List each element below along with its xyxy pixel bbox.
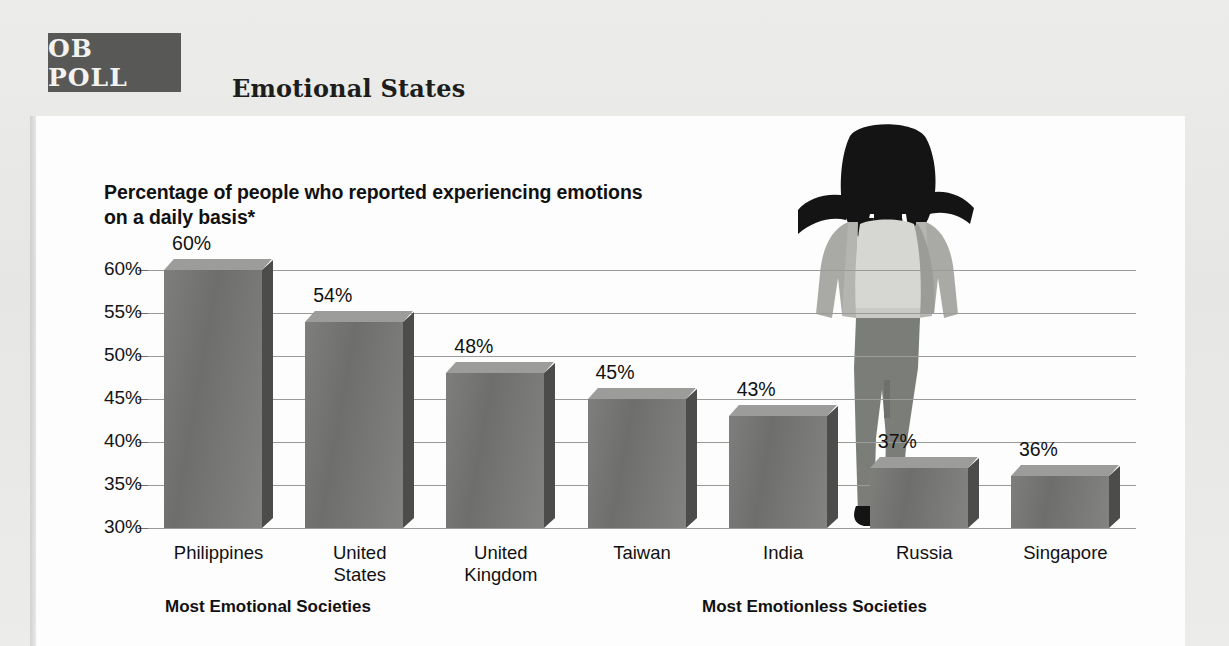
x-axis-category-label: UnitedKingdom	[430, 542, 571, 586]
y-axis-tick-label: 35%	[86, 473, 142, 495]
page-title: Emotional States	[232, 74, 465, 103]
y-axis-tick-label: 40%	[86, 430, 142, 452]
x-axis-category-label: Taiwan	[571, 542, 712, 564]
bar-top-face	[164, 259, 272, 270]
bar-front-face	[446, 373, 544, 528]
x-axis-category-label: UnitedStates	[289, 542, 430, 586]
bar-top-face	[1011, 465, 1119, 476]
gridline	[148, 528, 1136, 529]
y-axis-tick-label: 55%	[86, 301, 142, 323]
bar-side-face	[403, 312, 414, 528]
gridline	[148, 356, 1136, 357]
gridline	[148, 313, 1136, 314]
bar-value-label: 60%	[172, 232, 211, 255]
bar	[1011, 476, 1109, 528]
bar-value-label: 54%	[313, 284, 352, 307]
bar	[588, 399, 686, 528]
bar-top-face	[588, 388, 696, 399]
bar-value-label: 43%	[737, 378, 776, 401]
bar-top-face	[870, 457, 978, 468]
bar-value-label: 36%	[1019, 438, 1058, 461]
bar-side-face	[544, 363, 555, 528]
bar-value-label: 45%	[596, 361, 635, 384]
bar-top-face	[446, 362, 554, 373]
bar-side-face	[686, 389, 697, 528]
group-label: Most Emotional Societies	[165, 597, 371, 617]
bar-side-face	[1109, 467, 1120, 528]
bar-top-face	[305, 311, 413, 322]
bar-front-face	[870, 468, 968, 528]
bar-side-face	[262, 260, 273, 528]
bar-top-face	[729, 405, 837, 416]
bar	[870, 468, 968, 528]
chart-subtitle: Percentage of people who reported experi…	[104, 180, 664, 230]
bar-value-label: 37%	[878, 430, 917, 453]
bar	[446, 373, 544, 528]
y-axis-tick-label: 30%	[86, 516, 142, 538]
bar-front-face	[729, 416, 827, 528]
x-axis-category-label: Philippines	[148, 542, 289, 564]
x-axis-category-label: Singapore	[995, 542, 1136, 564]
gridline	[148, 270, 1136, 271]
bar-value-label: 48%	[454, 335, 493, 358]
bar-front-face	[305, 322, 403, 528]
ob-poll-badge: OB POLL	[48, 33, 181, 92]
chart-plot-area: 60%55%50%45%40%35%30%	[148, 270, 1136, 528]
bar-side-face	[968, 458, 979, 528]
y-axis-tick-label: 60%	[86, 258, 142, 280]
bar	[729, 416, 827, 528]
bar-front-face	[1011, 476, 1109, 528]
bar-front-face	[588, 399, 686, 528]
ob-poll-badge-label: OB POLL	[48, 34, 181, 92]
y-axis-tick-label: 45%	[86, 387, 142, 409]
bar	[164, 270, 262, 528]
x-axis-category-label: Russia	[854, 542, 995, 564]
x-axis-category-label: India	[713, 542, 854, 564]
bar-side-face	[827, 406, 838, 528]
y-axis-tick-label: 50%	[86, 344, 142, 366]
bar	[305, 322, 403, 528]
bar-front-face	[164, 270, 262, 528]
group-label: Most Emotionless Societies	[702, 597, 927, 617]
